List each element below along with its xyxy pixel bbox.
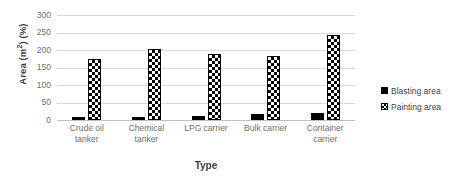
legend-item-label: Painting area: [391, 102, 441, 112]
bar-painting-area-crude-oil-tanker: [88, 59, 101, 120]
x-tick-label-line: Bulk carrier: [236, 123, 296, 134]
solid-black-square-icon: [381, 87, 388, 94]
checkered-square-icon: [381, 103, 388, 110]
bar-painting-area-lpg-carrier: [208, 54, 221, 120]
bar-blasting-area-crude-oil-tanker: [72, 117, 85, 121]
x-tick-label-line: carrier: [295, 134, 355, 145]
legend-item: Blasting area: [381, 84, 452, 97]
bar-group: [251, 15, 280, 120]
bar-blasting-area-bulk-carrier: [251, 114, 264, 120]
y-tick-label-100: 100: [17, 81, 51, 90]
legend-item: Painting area: [381, 100, 452, 113]
x-tick-label-line: LPG carrier: [176, 123, 236, 134]
bar-painting-area-bulk-carrier: [267, 56, 280, 120]
bar-blasting-area-container-carrier: [311, 113, 324, 120]
y-tick-label-50: 50: [17, 98, 51, 107]
legend-item-label: Blasting area: [391, 86, 441, 96]
x-tick-label-line: Container: [295, 123, 355, 134]
x-tick-label: LPG carrier: [176, 123, 236, 134]
y-tick-label-150: 150: [17, 63, 51, 72]
y-tick-label-0: 0: [17, 116, 51, 125]
x-tick-label: Chemicaltanker: [117, 123, 177, 145]
bars-layer: [57, 15, 355, 120]
gridline-0: [57, 120, 355, 121]
x-tick-label-line: Chemical: [117, 123, 177, 134]
bar-painting-area-chemical-tanker: [148, 49, 161, 120]
x-tick-label: Crude oil tanker: [57, 123, 117, 145]
bar-group: [72, 15, 101, 120]
bar-blasting-area-lpg-carrier: [192, 116, 205, 120]
x-tick-label-line: tanker: [117, 134, 177, 145]
bar-painting-area-container-carrier: [327, 35, 340, 120]
bar-chart: Area (m2) (%) 050100150200250300 Crude o…: [0, 0, 452, 184]
bar-group: [192, 15, 221, 120]
x-tick-label: Bulk carrier: [236, 123, 296, 134]
x-tick-label: Containercarrier: [295, 123, 355, 145]
legend: Blasting areaPainting area: [381, 84, 452, 116]
bar-blasting-area-chemical-tanker: [132, 117, 145, 121]
y-tick-label-300: 300: [17, 11, 51, 20]
x-axis-ticks: Crude oil tankerChemicaltankerLPG carrie…: [57, 123, 355, 155]
x-tick-label-line: Crude oil tanker: [57, 123, 117, 145]
x-axis-title: Type: [57, 160, 355, 171]
y-tick-label-250: 250: [17, 28, 51, 37]
bar-group: [311, 15, 340, 120]
y-tick-label-200: 200: [17, 46, 51, 55]
bar-group: [132, 15, 161, 120]
